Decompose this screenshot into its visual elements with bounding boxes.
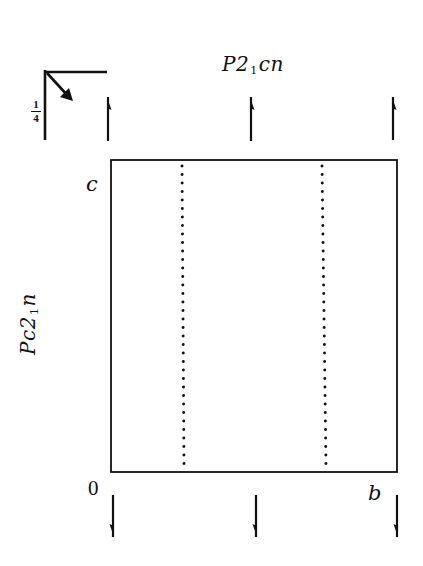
space-group-label-top: P21cn [222, 54, 284, 74]
screw-axes-bottom [110, 495, 399, 537]
axis-label-b: b [368, 483, 381, 504]
symbol-subscript: 1 [250, 64, 258, 77]
unit-cell-rectangle [111, 160, 397, 472]
arrow-head [253, 524, 258, 537]
dotted-glide-line [322, 166, 326, 467]
dotted-glide-line [182, 166, 184, 467]
arrow-up-icon [392, 97, 397, 140]
glide-planes [182, 166, 326, 467]
symbol-rest: n [16, 293, 40, 306]
axis-label-c: c [86, 174, 98, 195]
screw-axes-top [107, 97, 397, 141]
arrow-up-icon [250, 97, 255, 141]
origin-label: 0 [88, 478, 99, 499]
arrow-head [392, 97, 397, 110]
symmetry-diagram [0, 0, 423, 566]
symbol-main: P2 [222, 52, 249, 76]
symbol-main: Pc2 [16, 316, 40, 355]
arrow-up-icon [107, 97, 112, 141]
arrow-head [394, 524, 399, 537]
fraction-numerator: 1 [30, 99, 42, 110]
arrow-head [110, 524, 115, 537]
space-group-label-side: Pc21n [18, 293, 38, 355]
symbol-rest: cn [259, 52, 284, 76]
arrow-down-icon [394, 495, 399, 537]
height-fraction: 1 4 [30, 99, 42, 124]
symbol-subscript: 1 [28, 308, 41, 316]
arrow-down-icon [110, 495, 115, 537]
corner-symbol-icon [45, 70, 107, 140]
fraction-denominator: 4 [30, 113, 42, 124]
cell-outline [111, 160, 397, 472]
arrow-down-icon [253, 495, 258, 537]
